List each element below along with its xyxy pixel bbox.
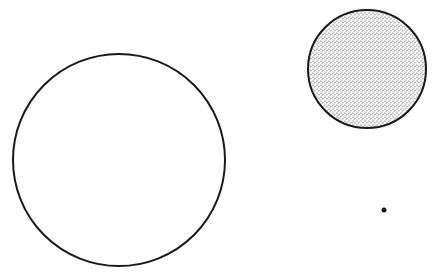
large-circle [13,54,225,266]
small-dot [382,208,387,213]
stippled-circle [308,10,426,128]
diagram-canvas [0,0,439,278]
diagram-figure [0,0,439,278]
